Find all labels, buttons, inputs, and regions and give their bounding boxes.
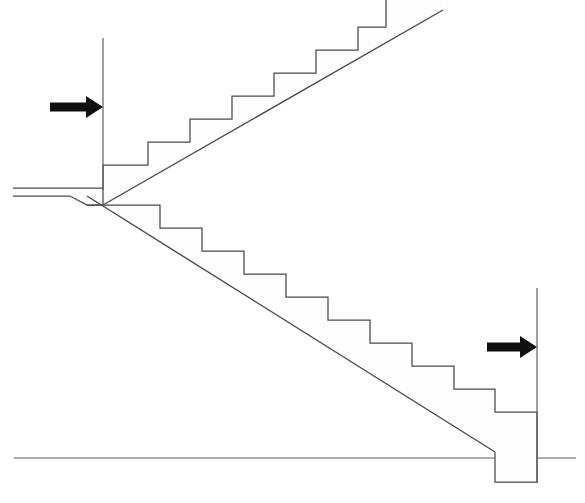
load-arrow-left — [50, 96, 103, 118]
landing-slab — [13, 188, 103, 205]
lower-stair-flight — [87, 196, 537, 482]
load-arrow-right — [487, 336, 537, 358]
stair-section-svg — [0, 0, 585, 503]
stair-section-figure — [0, 0, 585, 503]
upper-stair-flight — [103, 0, 443, 205]
upper-flight-soffit — [103, 10, 443, 205]
lower-flight-soffit — [87, 196, 495, 452]
